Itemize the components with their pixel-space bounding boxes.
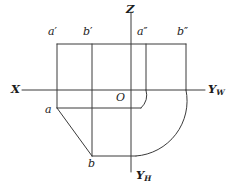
axis-label-x: X	[11, 84, 20, 96]
point-label-a-top: a	[45, 104, 52, 115]
point-label-b-side: b″	[177, 26, 188, 37]
diagonal-edge-line	[57, 108, 92, 156]
small-quarter-arc	[141, 90, 147, 108]
origin-label-o: O	[116, 92, 125, 103]
point-label-b-front: b′	[83, 26, 93, 37]
large-quarter-arc	[136, 90, 187, 156]
point-label-a-front: a′	[48, 26, 57, 37]
axis-label-yw: YW	[208, 84, 225, 96]
axis-label-yh: YH	[136, 170, 151, 182]
projection-drawing-canvas: X YW YH Z O a′ b′ a″ b″ a b	[0, 0, 233, 193]
point-label-a-side: a″	[137, 26, 148, 37]
axis-label-z: Z	[126, 4, 134, 16]
point-label-b-top: b	[88, 158, 95, 169]
